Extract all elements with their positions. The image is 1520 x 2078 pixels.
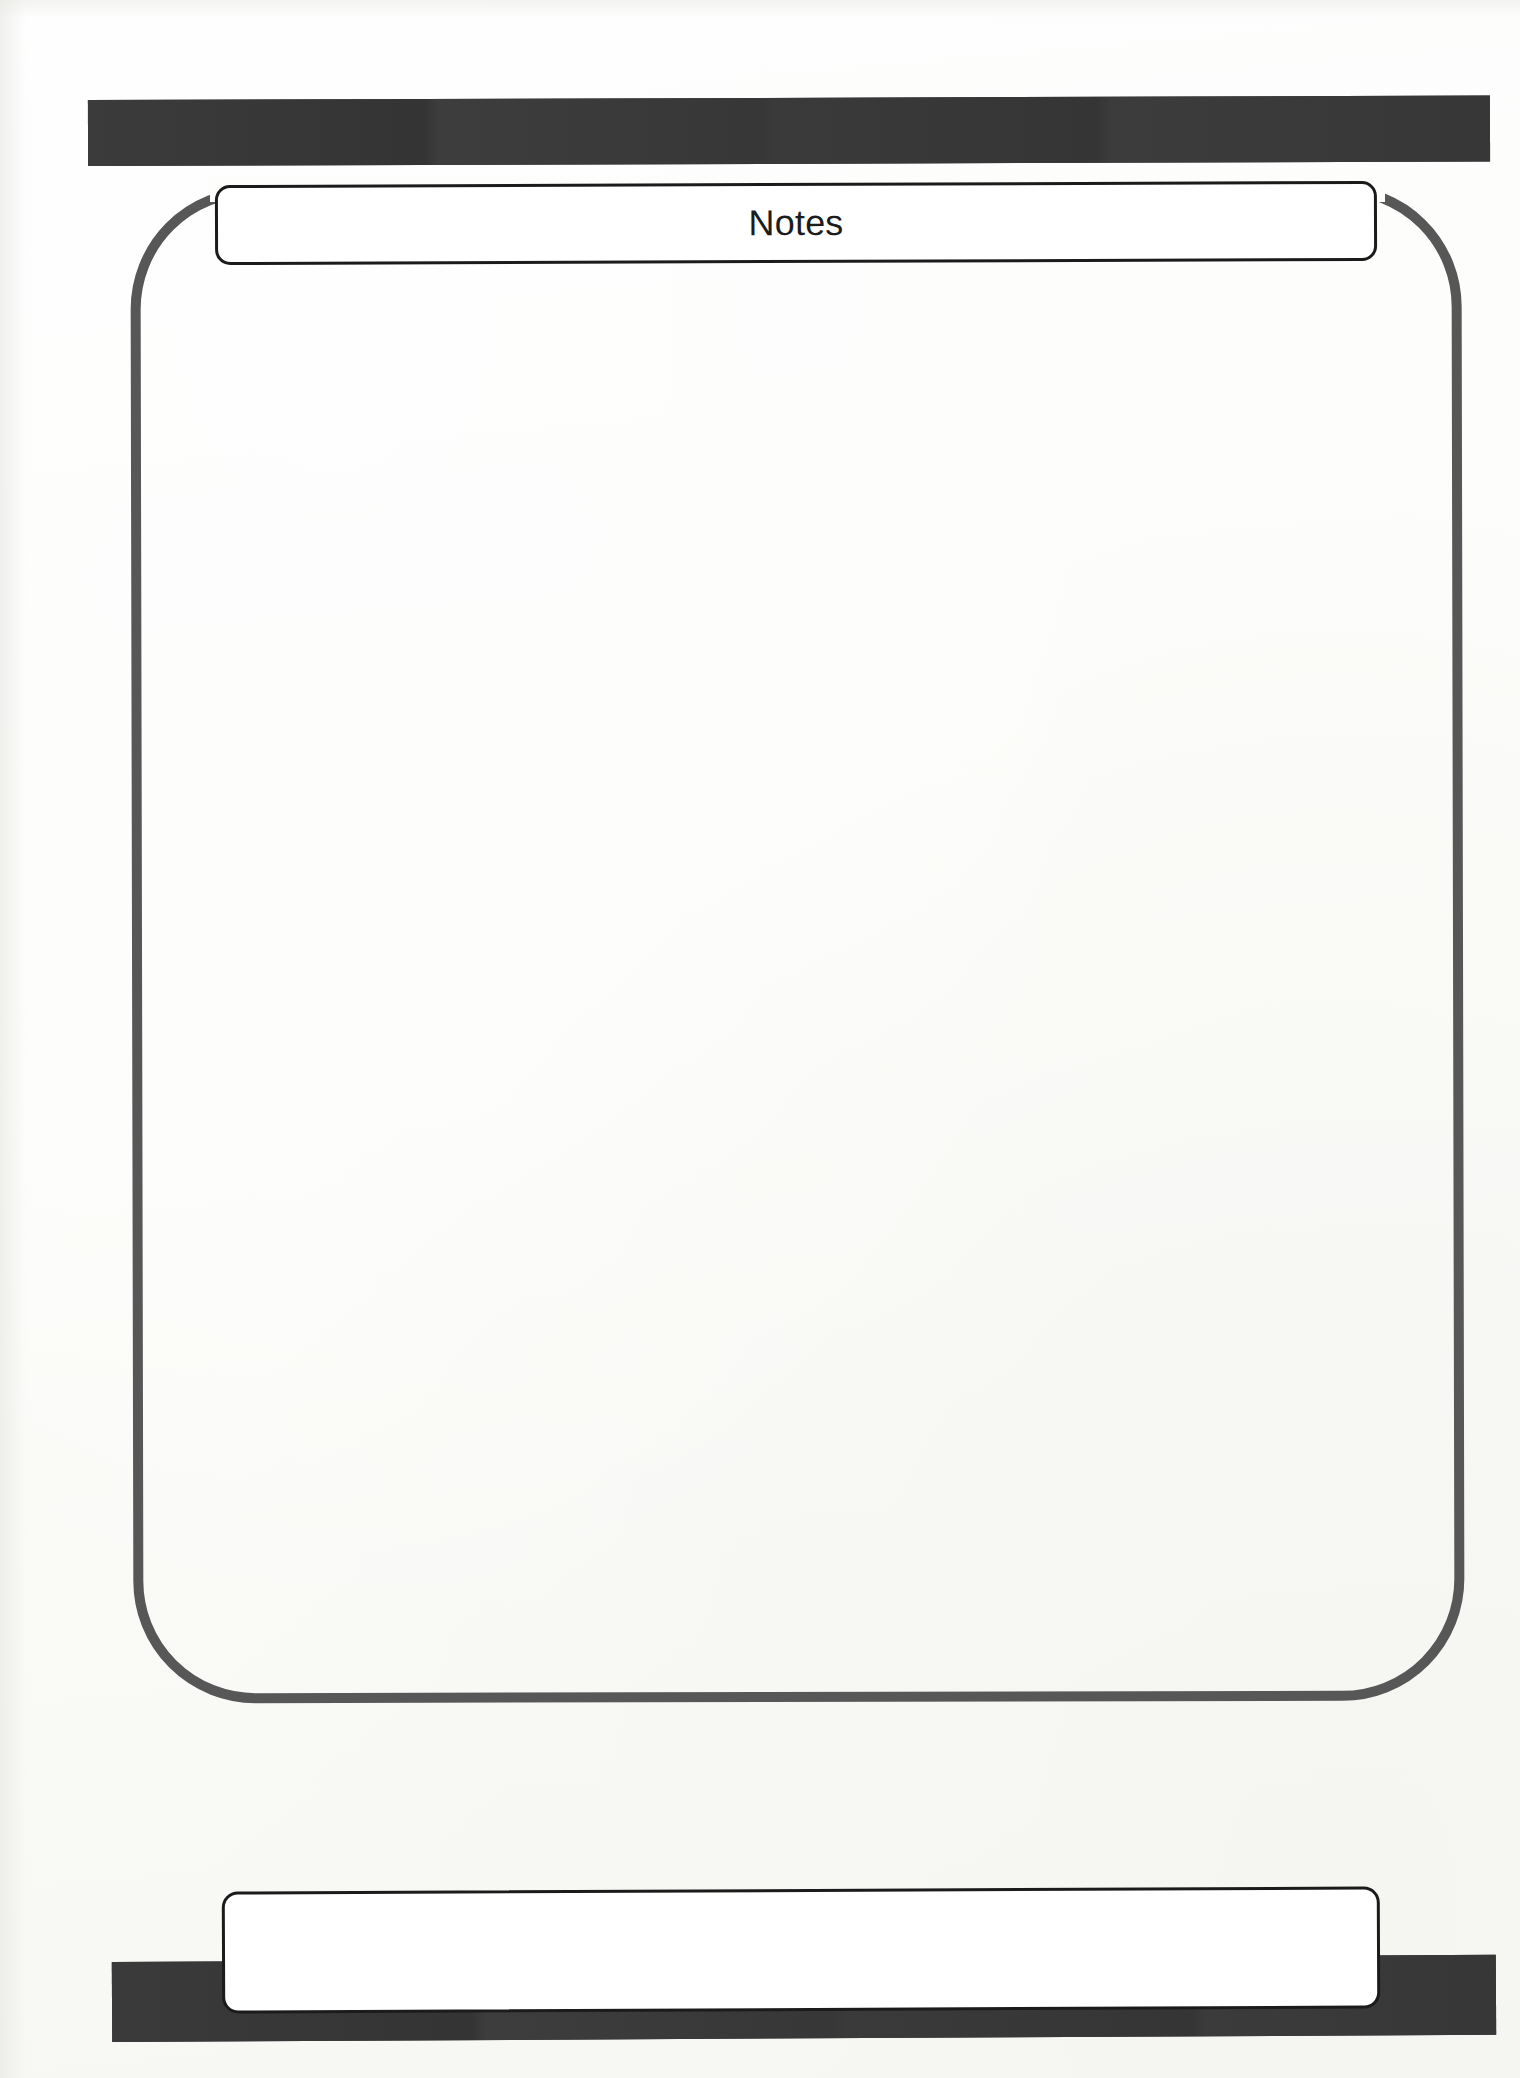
- paper-edge-left-shadow: [0, 0, 26, 2078]
- notes-page: Notes: [0, 0, 1520, 2078]
- page-title: Notes: [748, 205, 843, 241]
- title-plate[interactable]: Notes: [215, 181, 1377, 265]
- header-rule-bar: [88, 96, 1490, 166]
- paper-edge-top-shadow: [0, 0, 1520, 18]
- footer-plate[interactable]: [222, 1886, 1381, 2013]
- notes-writing-area[interactable]: [148, 266, 1448, 1694]
